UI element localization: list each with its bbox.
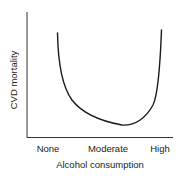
x-tick-moderate: Moderate [88,143,128,154]
y-axis-label: CVD mortality [8,51,19,110]
x-axis-label: Alcohol consumption [56,159,144,170]
x-tick-high: High [150,143,170,154]
cvd-mortality-curve [58,30,162,125]
x-tick-none: None [37,143,60,154]
